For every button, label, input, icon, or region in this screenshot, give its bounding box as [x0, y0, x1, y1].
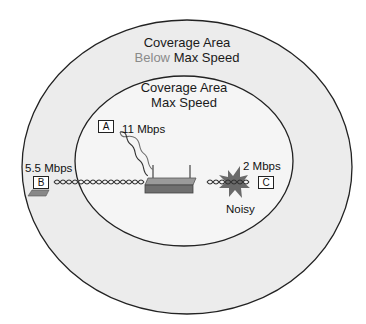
noisy-label: Noisy — [226, 203, 255, 215]
client-c-box: C — [258, 176, 274, 189]
outer-zone-title-rest: Max Speed — [174, 50, 240, 65]
inner-zone-title-line1: Coverage Area — [114, 80, 254, 95]
laptop-icon — [28, 190, 49, 196]
below-highlight: Below — [135, 50, 170, 65]
client-b-speed: 5.5 Mbps — [25, 162, 72, 174]
inner-zone-title: Coverage Area Max Speed — [114, 80, 254, 110]
inner-zone-title-line2: Max Speed — [114, 95, 254, 110]
client-a-box: A — [98, 120, 114, 133]
client-a-speed: 11 Mbps — [122, 123, 165, 135]
outer-zone-title: Coverage Area Below Max Speed — [112, 35, 262, 65]
outer-zone-title-line2: Below Max Speed — [112, 50, 262, 65]
client-c-speed: 2 Mbps — [243, 160, 281, 172]
outer-zone-title-line1: Coverage Area — [112, 35, 262, 50]
client-b-box: B — [33, 176, 49, 189]
